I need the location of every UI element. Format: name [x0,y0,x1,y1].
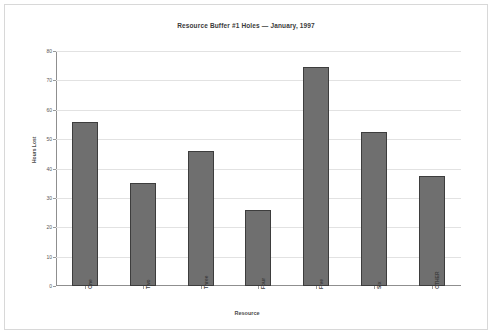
chart-frame: Resource Buffer #1 Holes — January, 1997… [4,4,488,330]
bar[interactable] [188,151,214,286]
x-tick-mark [432,286,433,289]
x-tick-label: OTHER [434,272,440,290]
bar-slot: Five [287,51,345,286]
y-tick-label: 30 [46,195,52,201]
y-tick-label: 40 [46,166,52,172]
bar[interactable] [419,176,445,286]
chart-title: Resource Buffer #1 Holes — January, 1997 [5,22,487,29]
bar[interactable] [361,132,387,286]
x-axis-title: Resource [5,310,489,316]
y-tick-label: 20 [46,224,52,230]
x-tick-label: Two [145,279,151,289]
y-tick-label: 50 [46,136,52,142]
x-tick-mark [143,286,144,289]
y-tick-label: 70 [46,77,52,83]
x-tick-label: One [87,279,93,289]
y-tick-label: 10 [46,254,52,260]
x-tick-label: Five [318,279,324,289]
x-tick-label: Four [260,278,266,289]
y-tick-label: 0 [49,283,52,289]
x-tick-label: Six [376,281,382,289]
bar-slot: Three [172,51,230,286]
y-tick-mark [53,286,56,287]
y-tick-label: 80 [46,48,52,54]
x-tick-mark [85,286,86,289]
bar-slot: Four [230,51,288,286]
plot-area: 01020304050607080 OneTwoThreeFourFiveSix… [56,51,461,286]
bar[interactable] [303,67,329,286]
bar[interactable] [72,122,98,287]
y-tick-label: 60 [46,107,52,113]
bar-slot: One [56,51,114,286]
bar-slot: OTHER [403,51,461,286]
bar[interactable] [130,183,156,286]
bar-slot: Six [345,51,403,286]
x-tick-mark [201,286,202,289]
x-tick-label: Three [203,275,209,289]
y-axis-title: Hours Lost [31,137,37,163]
bar[interactable] [245,210,271,286]
bar-slot: Two [114,51,172,286]
